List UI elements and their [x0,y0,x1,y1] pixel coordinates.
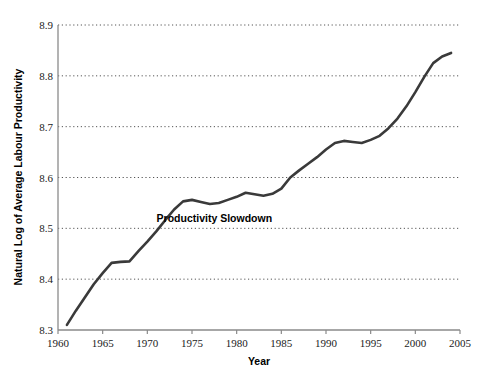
x-tick-label: 1995 [360,337,383,349]
x-tick-label: 2000 [404,337,427,349]
plot-area-background [58,25,460,330]
x-tick-label: 1975 [181,337,204,349]
x-axis-title: Year [248,355,270,367]
x-tick-label: 1980 [226,337,249,349]
y-axis-tick-labels: 8.38.48.58.68.78.88.9 [39,19,53,336]
x-tick-label: 1960 [47,337,70,349]
y-tick-label: 8.4 [39,273,53,285]
x-tick-label: 1970 [136,337,159,349]
y-tick-label: 8.7 [39,121,53,133]
x-tick-label: 2005 [449,337,472,349]
chart-container: 1960196519701975198019851990199520002005… [0,0,496,385]
x-tick-label: 1985 [270,337,293,349]
y-tick-label: 8.5 [39,222,53,234]
line-chart: 1960196519701975198019851990199520002005… [0,0,496,385]
y-tick-label: 8.9 [39,19,53,31]
x-tick-label: 1965 [92,337,115,349]
x-tick-label: 1990 [315,337,338,349]
y-axis-title: Natural Log of Average Labour Productivi… [12,68,24,285]
y-tick-label: 8.3 [39,324,53,336]
annotation-productivity-slowdown: Productivity Slowdown [157,212,273,224]
x-axis-tick-labels: 1960196519701975198019851990199520002005 [47,337,472,349]
y-tick-label: 8.8 [39,70,53,82]
y-tick-label: 8.6 [39,172,53,184]
